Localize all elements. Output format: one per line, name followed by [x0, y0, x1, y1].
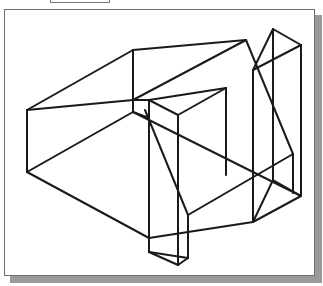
wireframe-edge [133, 112, 301, 196]
wireframe-edge [27, 172, 149, 238]
wireframe-edge [145, 110, 188, 215]
wireframe-edge [149, 100, 178, 115]
wireframe-edge [149, 222, 253, 238]
wireframe-edge [178, 258, 188, 265]
wireframe-edge [273, 180, 301, 196]
wireframe-drawing [0, 0, 323, 286]
wireframe-edge [273, 29, 301, 45]
wireframe-edge [27, 112, 133, 172]
